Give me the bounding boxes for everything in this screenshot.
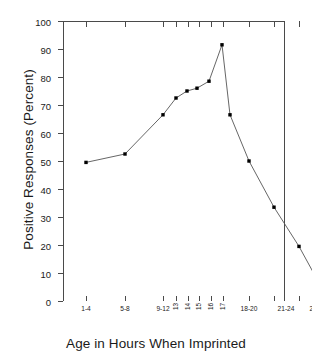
x-tick-label: 9-12 bbox=[156, 305, 169, 312]
data-point-marker bbox=[161, 113, 164, 116]
y-tick-label: 30 bbox=[40, 213, 51, 224]
x-tick-bottom bbox=[299, 296, 300, 301]
y-tick-label: 100 bbox=[35, 17, 51, 28]
x-tick-label: 1-4 bbox=[81, 305, 91, 312]
data-point-marker bbox=[185, 89, 188, 92]
data-point-marker bbox=[272, 206, 275, 209]
data-point-marker bbox=[207, 80, 210, 83]
data-point-marker bbox=[123, 152, 126, 155]
y-tick-label: 80 bbox=[40, 73, 51, 84]
y-tick-label: 70 bbox=[40, 101, 51, 112]
y-tick-label: 0 bbox=[46, 297, 51, 308]
x-tick-label: 5-8 bbox=[120, 305, 130, 312]
data-point-marker bbox=[220, 43, 223, 46]
y-tick-label: 10 bbox=[40, 269, 51, 280]
x-tick-label: 21-24 bbox=[278, 305, 295, 312]
data-point-marker bbox=[195, 87, 198, 90]
y-tick: 0 bbox=[58, 301, 63, 302]
plot-area: 0102030405060708090100 1-45-89-121314151… bbox=[63, 21, 285, 301]
x-axis-title: Age in Hours When Imprinted bbox=[0, 336, 312, 351]
data-point-marker bbox=[228, 113, 231, 116]
x-tick-top bbox=[299, 21, 300, 27]
x-tick-label: 14 bbox=[184, 303, 191, 310]
y-tick-label: 20 bbox=[40, 241, 51, 252]
data-point-marker bbox=[297, 245, 300, 248]
y-tick-label: 60 bbox=[40, 129, 51, 140]
x-tick-label: 15 bbox=[195, 303, 202, 310]
series-line bbox=[86, 45, 312, 289]
y-tick-label: 50 bbox=[40, 157, 51, 168]
y-axis-title: Positive Responses (Percent) bbox=[21, 35, 36, 285]
data-point-marker bbox=[247, 159, 250, 162]
x-tick-label: 25-28 bbox=[310, 305, 312, 312]
data-point-marker bbox=[174, 96, 177, 99]
data-point-marker bbox=[84, 161, 87, 164]
x-tick-label: 16 bbox=[207, 303, 214, 310]
x-tick-label: 18-20 bbox=[241, 305, 258, 312]
data-series-line bbox=[63, 21, 285, 301]
chart-figure: Positive Responses (Percent) 01020304050… bbox=[0, 0, 312, 362]
x-tick-label: 17 bbox=[219, 303, 226, 310]
y-tick-label: 40 bbox=[40, 185, 51, 196]
y-tick-label: 90 bbox=[40, 45, 51, 56]
x-tick-label: 13 bbox=[172, 303, 179, 310]
